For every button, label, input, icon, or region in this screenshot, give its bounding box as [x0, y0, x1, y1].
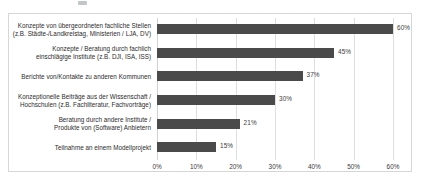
bar-row: 37%: [157, 65, 393, 89]
category-label-row: Beratung durch andere Institute / Produk…: [9, 113, 151, 137]
x-tick-label: 40%: [308, 161, 321, 172]
bar-row: 30%: [157, 89, 393, 113]
category-label-row: Teilnahme an einem Modellprojekt: [9, 136, 151, 160]
plot-area: 60%45%37%30%21%15%: [157, 18, 393, 160]
x-tick-label: 30%: [269, 161, 282, 172]
bar-chart: Konzepte von übergeordneten fachliche St…: [8, 13, 412, 172]
bar: [157, 95, 275, 105]
category-label-row: Konzepte von übergeordneten fachliche St…: [9, 18, 151, 42]
category-label: Berichte von/Kontakte zu anderen Kommune…: [21, 73, 151, 81]
bar: [157, 71, 303, 81]
category-axis-labels: Konzepte von übergeordneten fachliche St…: [9, 18, 155, 160]
bar: [157, 119, 240, 129]
category-label-row: Konzeptionelle Beiträge aus der Wissensc…: [9, 89, 151, 113]
bar-value-label: 15%: [220, 140, 233, 151]
bar-row: 21%: [157, 113, 393, 137]
bar-value-label: 37%: [307, 69, 320, 80]
category-label-row: Konzepte / Beratung durch fachlich einsc…: [9, 42, 151, 66]
bar-value-label: 30%: [279, 93, 292, 104]
bar: [157, 48, 334, 58]
category-label-row: Berichte von/Kontakte zu anderen Kommune…: [9, 65, 151, 89]
x-tick-label: 20%: [229, 161, 242, 172]
category-label: Teilnahme an einem Modellprojekt: [55, 144, 151, 152]
bar-row: 15%: [157, 136, 393, 160]
x-tick-label: 10%: [190, 161, 203, 172]
category-label: Konzepte von übergeordneten fachliche St…: [13, 22, 151, 39]
category-label: Beratung durch andere Institute / Produk…: [54, 116, 151, 133]
x-tick-label: 0%: [152, 161, 161, 172]
bar: [157, 24, 393, 34]
x-tick-label: 60%: [387, 161, 400, 172]
category-label: Konzeptionelle Beiträge aus der Wissensc…: [18, 93, 151, 110]
scan-artifact: [78, 1, 87, 5]
x-axis-tick-labels: 0%10%20%30%40%50%60%: [157, 161, 393, 172]
bar-value-label: 45%: [338, 46, 351, 57]
bar-value-label: 21%: [244, 117, 257, 128]
category-label: Konzepte / Beratung durch fachlich einsc…: [36, 45, 151, 62]
bar-row: 60%: [157, 18, 393, 42]
x-tick-label: 50%: [347, 161, 360, 172]
bar: [157, 142, 216, 152]
bar-value-label: 60%: [397, 22, 410, 33]
gridline-60: [393, 18, 394, 160]
bar-row: 45%: [157, 42, 393, 66]
